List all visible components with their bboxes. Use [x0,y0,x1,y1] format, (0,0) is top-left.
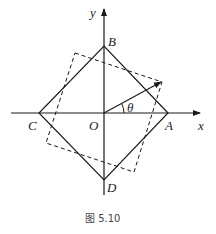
figure-caption: 图 5.10 [85,213,120,224]
angle-theta-label: θ [127,100,134,115]
point-c-label: C [28,118,37,133]
y-axis-label: y [88,5,96,20]
angle-arc [122,104,124,114]
point-d-label: D [106,180,117,195]
origin-label: O [89,118,99,133]
figure-diagram: y x O B A C D θ 图 5.10 [0,0,216,234]
point-b-label: B [108,34,116,49]
x-axis-label: x [197,118,204,133]
point-a-label: A [164,118,173,133]
